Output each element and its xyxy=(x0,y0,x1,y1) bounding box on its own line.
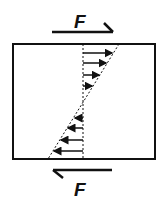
block-outline xyxy=(13,44,155,159)
stress-arrows-left xyxy=(54,118,83,151)
bottom-force-label: F xyxy=(74,179,87,200)
shear-diagram: F F xyxy=(0,0,163,206)
bottom-force-arrow xyxy=(53,170,112,178)
top-force-label: F xyxy=(74,11,87,32)
stress-arrows-right xyxy=(83,53,112,86)
